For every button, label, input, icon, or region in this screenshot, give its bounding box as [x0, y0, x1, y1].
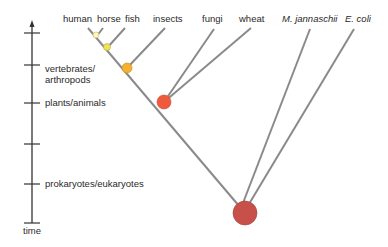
branch-insects — [127, 28, 165, 68]
leaf-label-m-jannaschii: M. jannaschii — [282, 13, 338, 24]
leaf-label-insects: insects — [153, 13, 183, 24]
leaf-label-fish: fish — [125, 13, 140, 24]
phylogenetic-tree-diagram: vertebrates/ arthropods plants/animals p… — [0, 0, 388, 247]
leaf-label-horse: horse — [97, 13, 121, 24]
node-prokaryotes-eukaryotes — [233, 201, 257, 225]
node-vertebrates-arthropods — [122, 63, 132, 73]
branch-m-jannaschii — [243, 29, 310, 203]
node-human-horse — [93, 32, 99, 38]
tick-label-plants-animals: plants/animals — [45, 97, 106, 108]
branch-e-coli — [249, 29, 354, 204]
tick-label-vertebrates: vertebrates/ — [45, 63, 96, 74]
time-axis — [24, 20, 40, 223]
leaf-label-e-coli: E. coli — [345, 13, 372, 24]
tick-label-arthropods: arthropods — [45, 74, 91, 85]
node-fish — [104, 44, 111, 51]
node-plants-animals — [157, 95, 171, 109]
leaf-label-fungi: fungi — [202, 13, 223, 24]
leaf-label-wheat: wheat — [238, 13, 265, 24]
axis-label-time: time — [23, 225, 41, 236]
tick-label-prokaryotes-eukaryotes: prokaryotes/eukaryotes — [45, 178, 144, 189]
arrow-up-icon — [30, 20, 35, 27]
leaf-label-human: human — [63, 13, 92, 24]
